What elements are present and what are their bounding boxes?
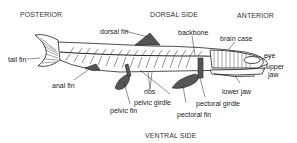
backbone-label: backbone — [178, 29, 208, 36]
eye-label: eye — [264, 52, 275, 59]
pectoral-girdle-label: pectoral girdle — [196, 100, 240, 107]
pectoral-fin-label: pectoral fin — [177, 111, 211, 118]
tail-fin-label: tail fin — [8, 56, 26, 63]
upper-jaw-label-line1: upper — [266, 63, 284, 70]
upper-jaw-label-line2: jaw — [268, 71, 279, 78]
anal-fin-label: anal fin — [52, 82, 75, 89]
fish-skeleton-illustration — [0, 0, 297, 143]
dorsal-fin-label: dorsal fin — [100, 28, 128, 35]
brain-case-label: brain case — [220, 35, 252, 42]
ribs-label: ribs — [144, 88, 155, 95]
pelvic-fin-label: pelvic fin — [110, 107, 137, 114]
lower-jaw-label: lower jaw — [222, 88, 251, 95]
pelvic-girdle-label: pelvic girdle — [134, 99, 171, 106]
